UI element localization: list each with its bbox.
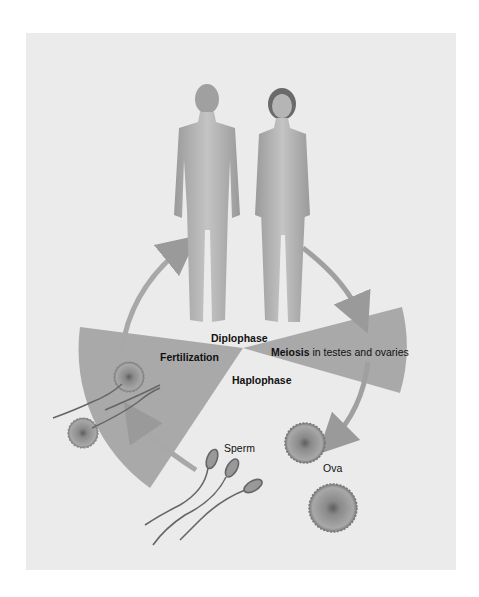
ova-cells	[285, 423, 357, 532]
ova-label: Ova	[323, 462, 342, 474]
fertilization-label: Fertilization	[160, 351, 219, 363]
female-figure	[255, 88, 310, 322]
meiosis-term: Meiosis	[271, 346, 310, 358]
arrow-adults-to-meiosis	[303, 248, 360, 315]
meiosis-label: Meiosis in testes and ovaries	[271, 346, 409, 358]
haplophase-label: Haplophase	[232, 374, 292, 386]
male-figure	[174, 84, 240, 322]
meiosis-detail: in testes and ovaries	[312, 346, 408, 358]
diplophase-label: Diplophase	[211, 332, 268, 344]
life-cycle-art	[0, 0, 479, 597]
sperm-label: Sperm	[224, 442, 255, 454]
